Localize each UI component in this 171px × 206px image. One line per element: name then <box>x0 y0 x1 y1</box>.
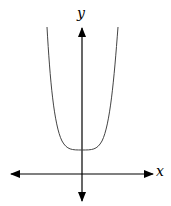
graph-canvas <box>0 0 171 206</box>
y-axis-label: y <box>77 6 85 20</box>
x-axis-label: x <box>156 164 164 178</box>
